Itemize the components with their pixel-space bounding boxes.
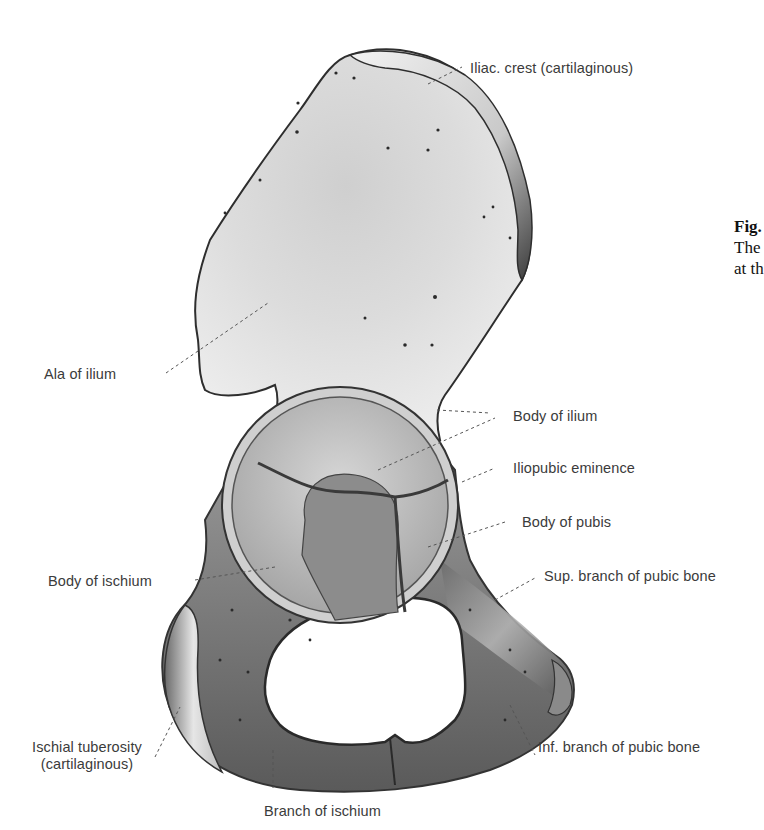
caption-line-1: Fig.	[734, 216, 764, 237]
label-ischial-tuberosity-line1: Ischial tuberosity	[12, 739, 162, 756]
label-body-of-ilium: Body of ilium	[513, 408, 597, 425]
label-inf-branch-pubic-bone: Inf. branch of pubic bone	[538, 739, 700, 756]
figure-caption: Fig. The at th	[734, 216, 764, 279]
caption-line-3: at th	[734, 258, 764, 279]
label-ala-of-ilium: Ala of ilium	[44, 366, 116, 383]
label-ischial-tuberosity: Ischial tuberosity (cartilaginous)	[12, 739, 162, 773]
label-ischial-tuberosity-line2: (cartilaginous)	[12, 756, 162, 773]
label-iliac-crest: Iliac. crest (cartilaginous)	[470, 60, 633, 77]
label-branch-of-ischium: Branch of ischium	[264, 803, 381, 820]
ala-of-ilium-shape	[195, 49, 532, 440]
label-body-of-pubis: Body of pubis	[522, 514, 611, 531]
label-iliopubic-eminence: Iliopubic eminence	[513, 460, 635, 477]
acetabulum	[222, 387, 458, 623]
caption-line-2: The	[734, 237, 764, 258]
label-sup-branch-pubic-bone: Sup. branch of pubic bone	[544, 568, 716, 585]
label-body-of-ischium: Body of ischium	[48, 573, 152, 590]
